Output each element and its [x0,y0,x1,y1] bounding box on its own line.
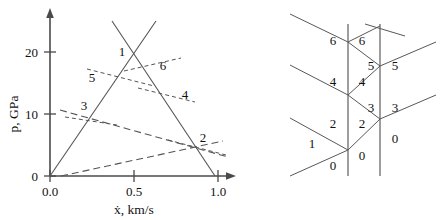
figure-container: 0 10 20 0.0 0.5 1.0 p, GPa ẋ, km/s [0,0,442,220]
region-label-left-4: 4 [330,74,337,89]
solid-polar-left-facing [112,21,215,176]
y-axis-arrowhead [46,8,54,18]
y-tick-label-20: 20 [25,45,38,60]
point-label-3: 3 [81,98,88,113]
point-label-1: 1 [119,44,126,59]
point-label-4: 4 [182,87,189,102]
axes-group [44,8,236,182]
characteristic-incoming-0 [290,150,348,176]
region-label-inner-3: 3 [368,100,375,115]
y-tick-label-10: 10 [25,107,38,122]
characteristic-reflected-1 [290,118,348,150]
short-dash-polar-6 [124,58,181,71]
short-dash-polar-5 [87,69,154,86]
right-panel-svg: 0 2 4 6 1 0 2 4 6 3 5 0 3 5 [240,0,442,220]
y-tick-label-0: 0 [32,169,39,184]
region-label-outer-1: 1 [309,136,316,151]
region-labels-group: 0 2 4 6 1 0 2 4 6 3 5 0 3 5 [309,33,399,173]
right-panel-xt-diagram: 0 2 4 6 1 0 2 4 6 3 5 0 3 5 [240,0,442,220]
region-label-right-0: 0 [392,131,399,146]
region-label-left-0: 0 [330,158,337,173]
left-panel-svg: 0 10 20 0.0 0.5 1.0 p, GPa ẋ, km/s [0,0,240,220]
short-dash-polar-3 [65,117,117,125]
region-label-mid-2: 2 [359,116,366,131]
dashed-polar-through-2 [61,141,223,176]
region-label-right-3: 3 [392,100,399,115]
region-label-mid-0: 0 [359,148,366,163]
characteristic-transmitted-out-0 [380,95,436,119]
region-label-mid-4: 4 [359,74,366,89]
point-label-5: 5 [89,70,96,85]
x-axis-title: ẋ, km/s [114,202,154,217]
point-labels-group: 1 2 3 4 5 6 [81,44,207,145]
region-label-right-5: 5 [392,58,399,73]
characteristic-reflected-4 [290,14,348,42]
x-tick-label-10: 1.0 [210,184,226,199]
characteristic-reflected-2 [290,65,348,95]
x-axis-arrowhead [226,172,236,180]
region-label-left-2: 2 [330,116,337,131]
x-tick-label-00: 0.0 [42,184,58,199]
region-label-left-6: 6 [330,33,337,48]
y-axis-title: p, GPa [6,96,21,133]
x-tick-label-05: 0.5 [126,184,142,199]
solid-polar-right-facing [50,21,156,176]
solid-polars-group [50,21,215,176]
left-panel-shock-polar: 0 10 20 0.0 0.5 1.0 p, GPa ẋ, km/s [0,0,240,220]
region-label-mid-6: 6 [359,33,366,48]
region-label-inner-5: 5 [368,58,375,73]
point-label-2: 2 [200,130,207,145]
characteristic-transmitted-out-3 [380,42,436,66]
point-label-6: 6 [160,58,167,73]
